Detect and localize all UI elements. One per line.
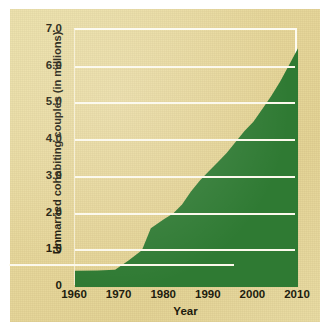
- y-tick-label: 1.0: [46, 242, 62, 254]
- x-tick-label: 1990: [195, 288, 221, 300]
- plot-area: [74, 28, 297, 285]
- y-tick-label: 7.0: [46, 22, 62, 34]
- gridline: [75, 213, 295, 215]
- gridline: [75, 102, 295, 104]
- x-tick-label: 2000: [240, 288, 266, 300]
- gridline: [75, 139, 295, 141]
- y-tick-label: 3.0: [46, 169, 62, 181]
- figure-panel: Unmarried cohabiting couples (in million…: [10, 9, 320, 322]
- x-axis-title: Year: [74, 305, 297, 317]
- y-tick-label: 2.0: [46, 206, 62, 218]
- y-tick-label: 6.0: [46, 59, 62, 71]
- x-tick-label: 2010: [284, 288, 310, 300]
- gridline: [75, 66, 295, 68]
- x-tick-label: 1970: [106, 288, 132, 300]
- x-axis-baseline: [9, 264, 234, 266]
- x-tick-label: 1960: [61, 288, 87, 300]
- gridline: [75, 249, 295, 251]
- x-axis-tick-labels: 196019701980199020002010: [74, 288, 297, 304]
- x-tick-label: 1980: [150, 288, 176, 300]
- y-axis-tick-labels: 7.06.05.04.03.02.01.00: [10, 28, 68, 285]
- y-tick-label: 5.0: [46, 95, 62, 107]
- y-tick-label: 4.0: [46, 132, 62, 144]
- gridline: [75, 176, 295, 178]
